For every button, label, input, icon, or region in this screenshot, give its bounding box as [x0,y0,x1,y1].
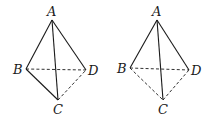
dashed-edge-cd [163,70,189,100]
vertex-label-b: B [12,62,23,77]
solid-edge-ab [26,20,52,69]
solid-edge-ad [157,20,189,70]
vertex-label-c: C [53,102,63,117]
solid-edge-ac [52,20,58,100]
vertex-label-d: D [87,63,99,78]
vertex-label-b: B [116,61,127,76]
tetrahedron-left: ABDC [12,4,99,117]
vertex-label-d: D [190,63,202,78]
vertex-label-a: A [151,4,161,19]
dashed-edge-cd [58,70,86,100]
solid-edge-ad [52,20,86,70]
solid-edge-ac [157,20,163,100]
dashed-edge-bd [130,68,189,70]
solid-edge-bc [26,69,58,100]
dashed-edge-bc [130,68,163,100]
vertex-label-c: C [158,102,168,117]
tetrahedron-right: ABDC [116,4,202,117]
solid-edge-ab [130,20,157,68]
vertex-label-a: A [46,4,56,19]
diagram-canvas: ABDC ABDC [0,0,213,120]
